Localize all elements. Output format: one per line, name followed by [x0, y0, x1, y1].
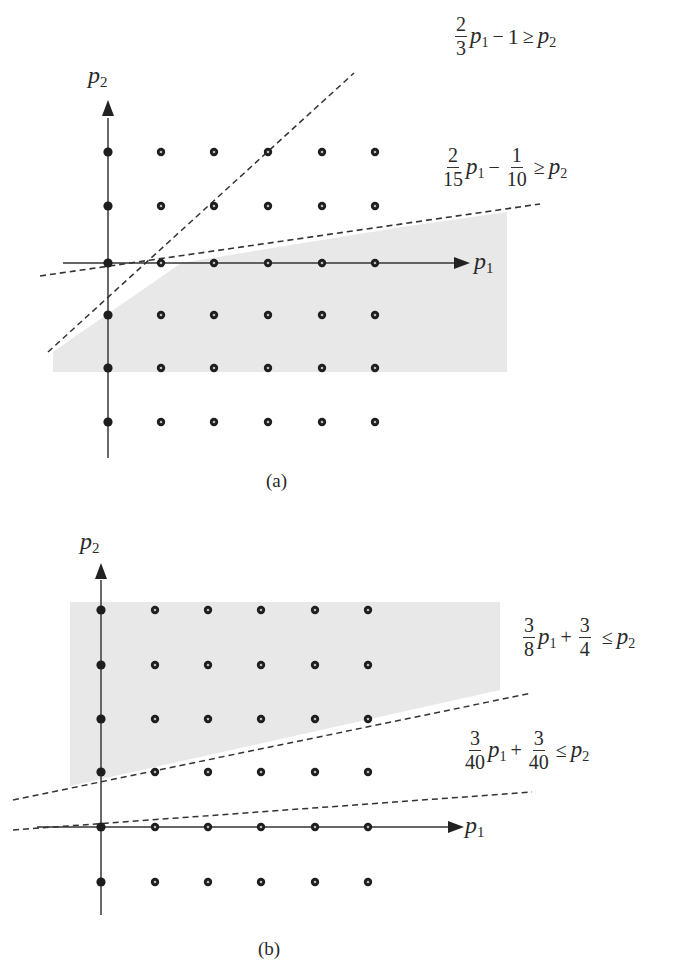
y-axis-arrow-b: [95, 563, 107, 579]
lattice-point-highlight: [213, 262, 216, 265]
caption-b: (b): [258, 938, 280, 960]
lattice-point-highlight: [260, 881, 263, 884]
lattice-point-highlight: [213, 314, 216, 317]
var: p: [538, 23, 550, 48]
relation: ≥: [523, 25, 534, 48]
lattice-point-highlight: [160, 151, 163, 154]
lattice-point-highlight: [374, 367, 377, 370]
lattice-point: [103, 310, 112, 319]
lattice-point-highlight: [267, 314, 270, 317]
lattice-point-highlight: [367, 718, 370, 721]
lattice-point-highlight: [154, 718, 157, 721]
feasible-region-a: [53, 212, 507, 372]
operator: −: [493, 25, 504, 48]
variable: p1: [466, 154, 485, 182]
lattice-point-highlight: [314, 609, 317, 612]
numerator: 3: [579, 615, 591, 638]
sub: 2: [549, 35, 556, 50]
variable: p1: [488, 737, 507, 765]
lattice-point-highlight: [207, 609, 210, 612]
lattice-point-highlight: [374, 262, 377, 265]
sub: 1: [550, 636, 557, 651]
lattice-point-highlight: [267, 262, 270, 265]
relation: ≥: [534, 156, 545, 179]
var: p: [538, 624, 550, 649]
variable: p1: [470, 23, 489, 51]
lattice-point-highlight: [160, 262, 163, 265]
y-axis-sub: 2: [92, 540, 100, 556]
lattice-point-highlight: [260, 771, 263, 774]
denominator: 8: [524, 638, 534, 660]
lattice-point: [96, 877, 105, 886]
var: p: [470, 23, 482, 48]
lattice-point-highlight: [207, 881, 210, 884]
denominator: 15: [443, 168, 463, 190]
lattice-point-highlight: [267, 151, 270, 154]
fraction: 110: [507, 145, 527, 190]
lattice-point: [103, 417, 112, 426]
lattice-point-highlight: [321, 367, 324, 370]
relation: ≤: [556, 739, 567, 762]
relation: ≤: [602, 626, 613, 649]
figure-b: [13, 563, 532, 915]
constant: 1: [508, 24, 519, 50]
y-axis-arrow-a: [102, 100, 114, 116]
lattice-point: [96, 605, 105, 614]
lattice-point: [103, 363, 112, 372]
numerator: 3: [533, 728, 545, 751]
rhs: p2: [617, 624, 636, 652]
x-axis-sub: 1: [486, 260, 494, 276]
rhs: p2: [549, 154, 568, 182]
lattice-point-highlight: [260, 664, 263, 667]
lattice-point-highlight: [367, 881, 370, 884]
operator: −: [489, 156, 500, 179]
lattice-point-highlight: [154, 881, 157, 884]
lattice-point-highlight: [154, 826, 157, 829]
lattice-point-highlight: [260, 609, 263, 612]
lattice-point-highlight: [207, 664, 210, 667]
fraction: 34: [579, 615, 591, 660]
lattice-point-highlight: [367, 664, 370, 667]
lattice-point-highlight: [207, 826, 210, 829]
fraction: 340: [465, 728, 485, 773]
numerator: 2: [455, 14, 467, 37]
sub: 1: [500, 749, 507, 764]
denominator: 3: [456, 37, 466, 59]
lattice-point-highlight: [213, 367, 216, 370]
x-axis-label-a: p1: [474, 248, 494, 277]
var: p: [549, 154, 561, 179]
lattice-point-highlight: [207, 718, 210, 721]
fraction: 215: [443, 145, 463, 190]
lattice-point-highlight: [374, 151, 377, 154]
lattice-point-highlight: [154, 609, 157, 612]
lattice-point-highlight: [260, 826, 263, 829]
inequality-b1: 38 p1 + 34 ≤ p2: [520, 615, 635, 660]
denominator: 40: [529, 751, 549, 773]
denominator: 10: [507, 168, 527, 190]
lattice-point: [96, 822, 105, 831]
lattice-point-highlight: [154, 771, 157, 774]
lattice-point: [103, 258, 112, 267]
lattice-point-highlight: [207, 771, 210, 774]
var: p: [571, 737, 583, 762]
diagram-canvas: [0, 0, 691, 980]
lattice-point-highlight: [367, 771, 370, 774]
lattice-point-highlight: [367, 826, 370, 829]
lattice-point-highlight: [160, 367, 163, 370]
feasible-region-b: [70, 602, 500, 786]
lattice-point-highlight: [267, 421, 270, 424]
lattice-point-highlight: [160, 421, 163, 424]
y-axis-label-b: p2: [80, 528, 100, 557]
fraction: 38: [523, 615, 535, 660]
lattice-point-highlight: [314, 881, 317, 884]
sub: 1: [478, 166, 485, 181]
lattice-point-highlight: [374, 314, 377, 317]
y-axis-sub: 2: [100, 74, 108, 90]
rhs: p2: [571, 737, 590, 765]
lattice-point-highlight: [321, 151, 324, 154]
lattice-point-highlight: [314, 664, 317, 667]
sub: 2: [582, 749, 589, 764]
inequality-a1: 23 p1 − 1 ≥ p2: [452, 14, 556, 59]
lattice-point-highlight: [321, 421, 324, 424]
operator: +: [511, 739, 522, 762]
